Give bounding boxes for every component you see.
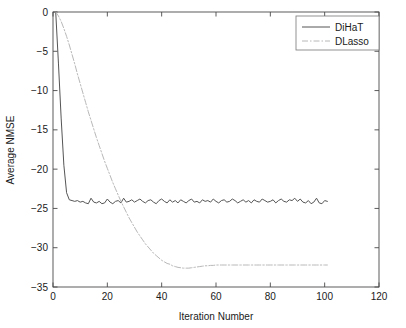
x-tick-label: 40 — [156, 291, 168, 302]
x-tick-label: 0 — [50, 291, 56, 302]
legend-label-dihat: DiHaT — [335, 22, 363, 33]
y-axis-label: Average NMSE — [5, 115, 16, 184]
y-tick-label: −35 — [31, 282, 48, 293]
y-tick-label: −30 — [31, 242, 48, 253]
x-tick-label: 100 — [316, 291, 333, 302]
y-tick-label: −5 — [37, 46, 49, 57]
chart-legend[interactable]: DiHaT DLasso — [296, 16, 379, 50]
y-tick-label: 0 — [42, 7, 48, 18]
x-tick-label: 80 — [265, 291, 277, 302]
x-axis-label: Iteration Number — [179, 311, 254, 322]
chart-svg: 020406080100120 0−5−10−15−20−25−30−35 It… — [0, 0, 406, 328]
y-tick-label: −20 — [31, 164, 48, 175]
legend-label-dlasso: DLasso — [335, 36, 369, 47]
y-tick-label: −10 — [31, 85, 48, 96]
x-tick-label: 60 — [210, 291, 222, 302]
y-tick-label: −25 — [31, 203, 48, 214]
x-tick-label: 120 — [371, 291, 388, 302]
chart-figure: 020406080100120 0−5−10−15−20−25−30−35 It… — [0, 0, 406, 328]
x-tick-label: 20 — [102, 291, 114, 302]
y-tick-label: −15 — [31, 124, 48, 135]
